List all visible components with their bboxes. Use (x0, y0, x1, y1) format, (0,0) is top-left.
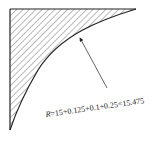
radius-expression: =15+0.125+0.1+0.25=15.475 (50, 96, 145, 118)
radius-annotation: R=15+0.125+0.1+0.25=15.475 (44, 96, 145, 119)
diagram-svg: R=15+0.125+0.1+0.25=15.475 (0, 0, 167, 143)
radius-leader-arrow (80, 38, 107, 88)
fillet-diagram: R=15+0.125+0.1+0.25=15.475 (0, 0, 167, 143)
